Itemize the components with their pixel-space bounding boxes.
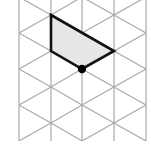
- grid-diagonal-line: [19, 87, 51, 105]
- grid-diagonal-line: [114, 87, 146, 105]
- grid-diagonal-line: [114, 0, 146, 15]
- grid-diagonal-line: [51, 141, 82, 158]
- triangle-grid: [19, 0, 146, 158]
- grid-diagonal-line: [19, 105, 51, 123]
- grid-diagonal-line: [114, 105, 146, 123]
- grid-diagonal-line: [82, 105, 114, 123]
- rotation-centre-dot: [78, 65, 86, 73]
- grid-diagonal-line: [51, 87, 82, 105]
- grid-diagonal-line: [114, 69, 146, 87]
- grid-diagonal-line: [114, 15, 146, 33]
- grid-diagonal-line: [19, 141, 51, 158]
- grid-diagonal-line: [114, 33, 146, 51]
- grid-diagonal-line: [114, 141, 146, 158]
- isometric-grid-diagram: [0, 0, 151, 158]
- grid-diagonal-line: [82, 123, 114, 141]
- grid-diagonal-line: [51, 69, 82, 87]
- grid-diagonal-line: [114, 51, 146, 69]
- grid-diagonal-line: [82, 0, 114, 15]
- grid-diagonal-line: [82, 15, 114, 33]
- grid-diagonal-line: [19, 0, 51, 15]
- grid-diagonal-line: [51, 0, 82, 15]
- grid-diagonal-line: [51, 105, 82, 123]
- grid-diagonal-line: [19, 69, 51, 87]
- grid-diagonal-line: [19, 15, 51, 33]
- grid-diagonal-line: [82, 69, 114, 87]
- grid-diagonal-line: [19, 123, 51, 141]
- grid-diagonal-line: [19, 51, 51, 69]
- grid-diagonal-line: [51, 123, 82, 141]
- grid-diagonal-line: [114, 123, 146, 141]
- grid-diagonal-line: [82, 141, 114, 158]
- grid-diagonal-line: [19, 33, 51, 51]
- grid-diagonal-line: [82, 87, 114, 105]
